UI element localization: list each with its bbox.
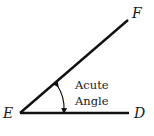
angle-arc-icon (57, 85, 64, 111)
vertex-label-f: F (131, 5, 143, 21)
annotation-angle: Angle (74, 94, 109, 108)
ray-EF (20, 20, 128, 113)
annotation-acute: Acute (74, 78, 109, 92)
vertex-label-e: E (2, 105, 13, 121)
angle-diagram: E F D Acute Angle (0, 0, 154, 136)
vertex-label-d: D (133, 105, 145, 121)
